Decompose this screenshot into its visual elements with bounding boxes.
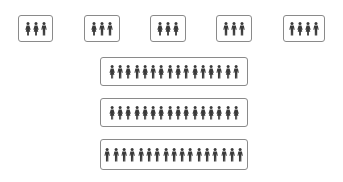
male-person-icon bbox=[128, 148, 136, 162]
female-person-icon bbox=[296, 22, 304, 36]
female-person-icon bbox=[141, 65, 149, 79]
female-person-icon bbox=[156, 22, 164, 36]
male-person-icon bbox=[199, 65, 207, 79]
male-person-icon bbox=[228, 148, 236, 162]
male-person-icon bbox=[232, 65, 240, 79]
small-group-1 bbox=[18, 15, 53, 42]
male-person-icon bbox=[178, 148, 186, 162]
small-group-2 bbox=[84, 15, 120, 42]
female-person-icon bbox=[124, 106, 132, 120]
female-person-icon bbox=[24, 22, 32, 36]
female-person-icon bbox=[108, 65, 116, 79]
female-person-icon bbox=[149, 106, 157, 120]
male-person-icon bbox=[145, 148, 153, 162]
male-person-icon bbox=[137, 148, 145, 162]
male-person-icon bbox=[166, 65, 174, 79]
male-person-icon bbox=[220, 148, 228, 162]
female-person-icon bbox=[32, 22, 40, 36]
male-person-icon bbox=[106, 22, 114, 36]
male-person-icon bbox=[153, 148, 161, 162]
male-person-icon bbox=[186, 148, 194, 162]
female-person-icon bbox=[133, 106, 141, 120]
male-person-icon bbox=[120, 148, 128, 162]
female-person-icon bbox=[174, 106, 182, 120]
female-person-icon bbox=[207, 106, 215, 120]
large-group-3 bbox=[100, 139, 248, 170]
male-person-icon bbox=[98, 22, 106, 36]
male-person-icon bbox=[236, 148, 244, 162]
figure-row bbox=[108, 65, 241, 79]
male-person-icon bbox=[116, 65, 124, 79]
male-person-icon bbox=[170, 148, 178, 162]
figure-row bbox=[103, 148, 244, 162]
large-group-2 bbox=[100, 98, 248, 127]
small-group-3 bbox=[150, 15, 186, 42]
female-person-icon bbox=[304, 22, 312, 36]
female-person-icon bbox=[164, 22, 172, 36]
female-person-icon bbox=[182, 106, 190, 120]
female-person-icon bbox=[207, 65, 215, 79]
female-person-icon bbox=[191, 106, 199, 120]
figure-row bbox=[108, 106, 241, 120]
male-person-icon bbox=[238, 22, 246, 36]
female-person-icon bbox=[157, 106, 165, 120]
large-group-1 bbox=[100, 57, 248, 86]
female-person-icon bbox=[141, 106, 149, 120]
male-person-icon bbox=[182, 65, 190, 79]
female-person-icon bbox=[224, 106, 232, 120]
female-person-icon bbox=[174, 65, 182, 79]
female-person-icon bbox=[199, 106, 207, 120]
figure-row bbox=[222, 22, 246, 36]
small-group-4 bbox=[216, 15, 252, 42]
male-person-icon bbox=[112, 148, 120, 162]
figure-row bbox=[288, 22, 320, 36]
female-person-icon bbox=[191, 65, 199, 79]
male-person-icon bbox=[149, 65, 157, 79]
male-person-icon bbox=[203, 148, 211, 162]
female-person-icon bbox=[215, 106, 223, 120]
small-group-5 bbox=[283, 15, 325, 42]
male-person-icon bbox=[211, 148, 219, 162]
male-person-icon bbox=[162, 148, 170, 162]
female-person-icon bbox=[224, 65, 232, 79]
figure-row bbox=[24, 22, 48, 36]
male-person-icon bbox=[230, 22, 238, 36]
female-person-icon bbox=[90, 22, 98, 36]
female-person-icon bbox=[157, 65, 165, 79]
female-person-icon bbox=[108, 106, 116, 120]
female-person-icon bbox=[116, 106, 124, 120]
female-person-icon bbox=[172, 22, 180, 36]
male-person-icon bbox=[312, 22, 320, 36]
figure-row bbox=[90, 22, 114, 36]
male-person-icon bbox=[40, 22, 48, 36]
figure-row bbox=[156, 22, 180, 36]
male-person-icon bbox=[215, 65, 223, 79]
male-person-icon bbox=[133, 65, 141, 79]
male-person-icon bbox=[195, 148, 203, 162]
female-person-icon bbox=[166, 106, 174, 120]
female-person-icon bbox=[124, 65, 132, 79]
male-person-icon bbox=[222, 22, 230, 36]
male-person-icon bbox=[103, 148, 111, 162]
female-person-icon bbox=[232, 106, 240, 120]
male-person-icon bbox=[288, 22, 296, 36]
